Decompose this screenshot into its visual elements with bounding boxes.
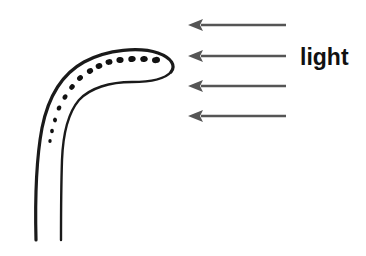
light-arrow-head [188, 19, 203, 31]
light-arrow [188, 19, 286, 31]
coleoptile-dot [128, 56, 136, 63]
plant-coleoptile [36, 50, 173, 240]
coleoptile-dot [95, 62, 103, 69]
light-arrow [188, 80, 286, 92]
light-arrows-group [188, 19, 286, 122]
light-label: light [300, 46, 349, 69]
coleoptile-dot [86, 67, 94, 75]
phototropism-diagram: light [0, 0, 366, 256]
light-arrow-head [188, 110, 203, 122]
coleoptile-dot [116, 57, 124, 63]
coleoptile-dot [140, 56, 148, 63]
coleoptile-dot [48, 139, 52, 143]
coleoptile-dot [53, 117, 58, 123]
light-arrow-head [188, 50, 203, 62]
coleoptile-dot [62, 93, 69, 100]
coleoptile-inner-edge [61, 72, 171, 240]
coleoptile-outer-edge [36, 50, 173, 240]
diagram-canvas [0, 0, 366, 256]
light-arrow [188, 50, 286, 62]
light-arrow-head [188, 80, 203, 92]
light-arrow [188, 110, 286, 122]
coleoptile-dot [50, 129, 54, 134]
coleoptile-dot [76, 74, 84, 82]
coleoptile-dot [56, 105, 62, 111]
coleoptile-dot [105, 59, 113, 66]
coleoptile-dot [68, 83, 76, 91]
coleoptile-dot [152, 56, 161, 63]
